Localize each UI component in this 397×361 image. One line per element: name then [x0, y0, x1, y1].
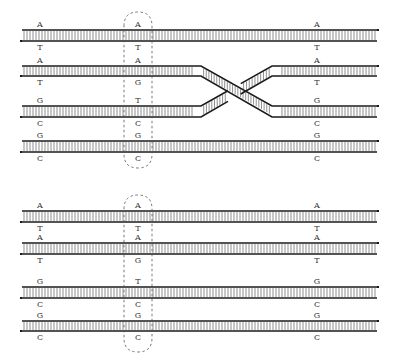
base-label: A [134, 56, 141, 65]
strand-end-marker [20, 330, 22, 332]
top-panel: ATATATATAGATGCTCGCGCGCGC [20, 12, 379, 168]
base-label: T [37, 78, 43, 87]
strand-end-marker [377, 286, 379, 288]
base-label: C [314, 333, 320, 342]
base-label: G [37, 96, 43, 105]
base-label: C [37, 333, 43, 342]
base-label: C [314, 154, 320, 163]
base-label: C [135, 119, 141, 128]
base-label: G [135, 256, 141, 265]
strand-end-marker [20, 40, 22, 42]
base-label: C [135, 300, 141, 309]
strand-end-marker [377, 320, 379, 322]
base-label: T [135, 277, 141, 286]
base-label: C [314, 119, 320, 128]
base-label: G [314, 131, 320, 140]
base-label: C [135, 333, 141, 342]
base-label: A [134, 233, 141, 242]
dna-duplex: ATATAT [20, 20, 379, 52]
base-label: C [37, 300, 43, 309]
base-label: C [135, 154, 141, 163]
base-label: A [313, 20, 320, 29]
base-label: A [134, 201, 141, 210]
dna-strand-exchange-diagram: ATATATATAGATGCTCGCGCGCGCATATATATAGATGCTC… [0, 0, 397, 361]
strand-end-marker [20, 221, 22, 223]
dna-duplex: ATATAT [20, 201, 379, 233]
base-label: G [37, 131, 43, 140]
base-label: A [134, 20, 141, 29]
base-label: T [37, 224, 43, 233]
base-label: A [313, 56, 320, 65]
base-label: T [135, 96, 141, 105]
strand-end-marker [377, 29, 379, 31]
base-label: T [314, 224, 320, 233]
strand-end-marker [20, 297, 22, 299]
base-label: G [135, 78, 141, 87]
strand-end-marker [20, 253, 22, 255]
dna-duplex: ATAGAT [20, 233, 379, 265]
base-label: A [36, 233, 43, 242]
base-label: C [314, 300, 320, 309]
dna-duplex: GCGCGC [20, 131, 379, 163]
strand-end-marker [377, 105, 379, 107]
base-label: G [314, 96, 320, 105]
base-label: G [37, 277, 43, 286]
base-label: C [37, 119, 43, 128]
base-label: G [314, 277, 320, 286]
base-label: T [37, 256, 43, 265]
base-label: G [135, 131, 141, 140]
base-label: G [314, 311, 320, 320]
base-label: T [135, 224, 141, 233]
base-label: A [36, 56, 43, 65]
strand-end-marker [20, 75, 22, 77]
base-label: A [36, 20, 43, 29]
dna-duplex: GCGCGC [20, 311, 379, 342]
base-label: G [135, 311, 141, 320]
strand-end-marker [377, 140, 379, 142]
strand-end-marker [377, 210, 379, 212]
base-label: T [314, 78, 320, 87]
strand-end-marker [377, 65, 379, 67]
base-label: A [313, 233, 320, 242]
dna-duplex: GCTCGC [20, 277, 379, 309]
dna-duplex: ATAGAT [20, 56, 379, 117]
bottom-panel: ATATATATAGATGCTCGCGCGCGC [20, 195, 379, 352]
strand-end-marker [20, 151, 22, 153]
base-label: T [135, 43, 141, 52]
base-label: T [314, 256, 320, 265]
base-label: T [314, 43, 320, 52]
base-label: G [37, 311, 43, 320]
strand-end-marker [20, 116, 22, 118]
base-label: A [313, 201, 320, 210]
base-label: C [37, 154, 43, 163]
base-label: T [37, 43, 43, 52]
strand-end-marker [377, 242, 379, 244]
base-label: A [36, 201, 43, 210]
